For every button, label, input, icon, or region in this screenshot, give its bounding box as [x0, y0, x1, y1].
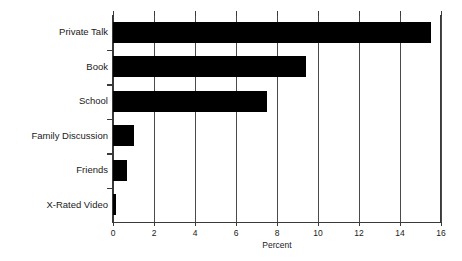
y-axis-tick	[107, 84, 113, 86]
x-axis-top-tick	[277, 11, 278, 16]
y-axis-labels: Private TalkBookSchoolFamily DiscussionF…	[0, 0, 108, 261]
x-axis-top-tick	[441, 11, 442, 16]
x-tick-label: 2	[142, 228, 166, 238]
x-axis-tick	[277, 222, 278, 226]
x-gridline	[277, 15, 278, 222]
x-tick-label: 10	[306, 228, 330, 238]
y-axis-tick-label: Family Discussion	[3, 131, 108, 141]
x-axis-tick	[154, 222, 155, 226]
bar	[113, 91, 267, 112]
x-gridline	[195, 15, 196, 222]
x-gridline	[236, 15, 237, 222]
x-axis-top-tick	[236, 11, 237, 16]
x-axis-tick	[113, 222, 114, 226]
x-axis-top-tick	[154, 11, 155, 16]
x-axis-top-tick	[400, 11, 401, 16]
bar	[113, 160, 127, 181]
bar-chart: Private TalkBookSchoolFamily DiscussionF…	[0, 0, 462, 261]
x-gridline	[154, 15, 155, 222]
x-tick-label: 12	[347, 228, 371, 238]
x-axis-tick	[441, 222, 442, 226]
x-axis-top-tick	[359, 11, 360, 16]
x-tick-label: 14	[388, 228, 412, 238]
bar	[113, 194, 116, 215]
y-axis-tick-label: Private Talk	[3, 27, 108, 37]
x-axis-tick	[195, 222, 196, 226]
x-axis-title: Percent	[113, 240, 441, 250]
x-tick-label: 6	[224, 228, 248, 238]
x-gridline	[359, 15, 360, 222]
plot-area	[113, 15, 441, 222]
x-axis-top-tick	[195, 11, 196, 16]
y-axis-tick-label: X-Rated Video	[3, 200, 108, 210]
y-axis-tick	[107, 50, 113, 52]
x-gridline	[441, 15, 442, 222]
x-axis-tick	[318, 222, 319, 226]
bar	[113, 56, 306, 77]
y-axis-tick	[107, 119, 113, 121]
bar	[113, 22, 431, 43]
y-axis-tick-label: School	[3, 96, 108, 106]
y-axis-tick-label: Book	[3, 62, 108, 72]
y-axis-tick-label: Friends	[3, 165, 108, 175]
y-axis-tick	[107, 188, 113, 190]
x-axis-top-tick	[318, 11, 319, 16]
x-tick-label: 4	[183, 228, 207, 238]
x-axis-tick	[359, 222, 360, 226]
x-gridline	[400, 15, 401, 222]
x-axis-top-tick	[113, 11, 114, 16]
bar	[113, 125, 134, 146]
y-axis-tick	[107, 153, 113, 155]
x-axis-tick	[236, 222, 237, 226]
x-tick-label: 8	[265, 228, 289, 238]
x-axis-tick	[400, 222, 401, 226]
x-tick-label: 0	[101, 228, 125, 238]
x-gridline	[318, 15, 319, 222]
x-tick-label: 16	[429, 228, 453, 238]
